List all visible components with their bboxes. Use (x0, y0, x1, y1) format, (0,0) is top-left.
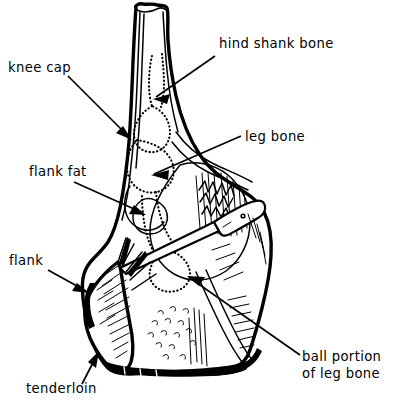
hind-shank-diagram: knee cap hind shank bone leg bone flank … (0, 0, 393, 403)
label-ball-portion-line1: ball portion (302, 349, 381, 364)
label-leg-bone: leg bone (245, 129, 305, 144)
figure-container: knee cap hind shank bone leg bone flank … (0, 0, 393, 403)
label-flank-fat: flank fat (29, 164, 87, 179)
leader-tenderloin (82, 351, 99, 384)
label-ball-portion-line2: of leg bone (302, 366, 380, 381)
label-hind-shank-bone: hind shank bone (219, 36, 334, 51)
label-knee-cap: knee cap (8, 60, 71, 75)
meat-cut-illustration (82, 4, 271, 377)
leader-knee-cap (68, 76, 132, 140)
arrow-head-tenderloin (88, 351, 99, 368)
knife-rivet-hole (242, 215, 244, 217)
label-flank: flank (9, 253, 43, 268)
label-tenderloin: tenderloin (26, 381, 97, 396)
